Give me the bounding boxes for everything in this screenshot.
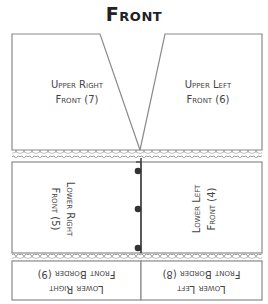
upper-right-front-label: Upper Right Front (7) [22, 77, 132, 107]
lower-right-front-label: Lower Right Front (5) [46, 164, 78, 254]
lower-right-front-border-line1: Lower Right [14, 282, 139, 297]
upper-right-front-line1: Upper Right [22, 77, 132, 92]
upper-left-front-line1: Upper Left [158, 77, 258, 92]
lower-right-front-border-label: Lower Right Front Border (9) [14, 265, 139, 297]
button-icon [135, 168, 142, 175]
lower-left-front-border-line1: Lower Left [143, 282, 260, 297]
lower-left-front-line1: Lower Left [189, 164, 204, 254]
upper-left-front-line2: Front (6) [158, 92, 258, 107]
upper-left-front-label: Upper Left Front (6) [158, 77, 258, 107]
lower-left-front-label: Lower Left Front (4) [189, 164, 221, 254]
upper-right-front-line2: Front (7) [22, 92, 132, 107]
lace-band-lower [12, 254, 262, 261]
button-icon [135, 245, 142, 252]
lower-left-front-line2: Front (4) [204, 164, 219, 254]
button-icon [135, 206, 142, 213]
lower-right-front-line1: Lower Right [63, 164, 78, 254]
lace-band-upper [12, 150, 262, 158]
lower-left-front-border-label: Lower Left Front Border (8) [143, 265, 260, 297]
lower-right-front-line2: Front (5) [48, 164, 63, 254]
lower-right-front-border-line2: Front Border (9) [14, 267, 139, 282]
lower-left-front-border-line2: Front Border (8) [143, 267, 260, 282]
front-schematic [0, 0, 268, 304]
